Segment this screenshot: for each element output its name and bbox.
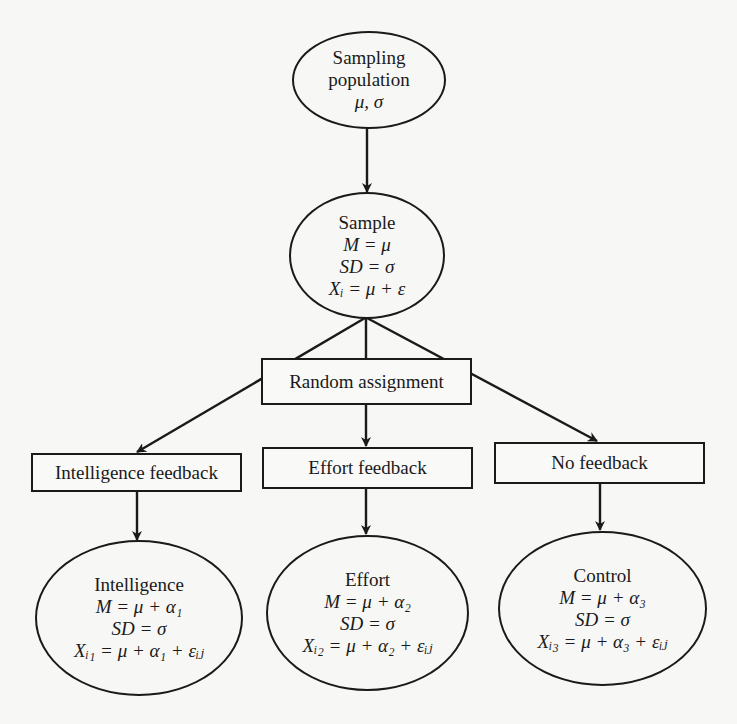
node-label: Intelligence <box>94 574 184 596</box>
random-assignment-box: Random assignment <box>261 358 472 405</box>
node-formula: Xᵢ₃ = μ + α₃ + εᵢⱼ <box>538 631 668 653</box>
intelligence-feedback-box: Intelligence feedback <box>31 453 242 492</box>
node-formula: Xᵢ₁ = μ + α₁ + εᵢⱼ <box>74 640 204 662</box>
node-label: Control <box>573 565 631 587</box>
intelligence-group-node: Intelligence M = μ + α₁ SD = σ Xᵢ₁ = μ +… <box>35 540 243 696</box>
node-formula: SD = σ <box>340 613 395 635</box>
box-label: Effort feedback <box>308 457 426 479</box>
node-label: Sampling <box>333 47 406 69</box>
node-formula: Xᵢ = μ + ε <box>329 278 405 300</box>
node-formula: M = μ + α₃ <box>559 587 646 609</box>
node-label: population <box>328 69 409 91</box>
box-label: Intelligence feedback <box>55 462 218 484</box>
no-feedback-box: No feedback <box>494 442 705 484</box>
node-formula: SD = σ <box>112 618 167 640</box>
node-label: Effort <box>345 569 390 591</box>
sampling-population-node: Sampling population μ, σ <box>292 31 446 129</box>
node-formula: SD = σ <box>575 609 630 631</box>
effort-feedback-box: Effort feedback <box>262 447 473 489</box>
node-formula: Xᵢ₂ = μ + α₂ + εᵢⱼ <box>303 635 433 657</box>
node-formula: μ, σ <box>355 91 383 113</box>
node-formula: SD = σ <box>340 256 395 278</box>
node-formula: M = μ + α₁ <box>96 596 183 618</box>
node-formula: M = μ <box>343 234 391 256</box>
node-label: Sample <box>339 212 396 234</box>
control-group-node: Control M = μ + α₃ SD = σ Xᵢ₃ = μ + α₃ +… <box>498 531 707 686</box>
node-formula: M = μ + α₂ <box>324 591 411 613</box>
sample-node: Sample M = μ SD = σ Xᵢ = μ + ε <box>289 192 445 319</box>
box-label: Random assignment <box>289 371 444 393</box>
box-label: No feedback <box>551 452 648 474</box>
effort-group-node: Effort M = μ + α₂ SD = σ Xᵢ₂ = μ + α₂ + … <box>266 535 469 691</box>
